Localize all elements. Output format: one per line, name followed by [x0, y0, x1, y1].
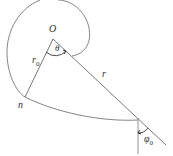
spiral-curve [7, 0, 138, 120]
r-label: r [102, 69, 106, 79]
origin-label: O [49, 24, 56, 34]
r0-label: r0 [32, 55, 39, 68]
phi0-sub: 0 [150, 139, 154, 147]
spiral-diagram: O θ r0 r n φ0 [0, 0, 173, 156]
r0-sub: 0 [36, 60, 40, 68]
radius-r-line [53, 39, 166, 145]
phi0-label: φ0 [144, 134, 153, 147]
n-label: n [18, 100, 23, 110]
radius-r0-line [25, 39, 53, 97]
phi-arrow-icon [138, 130, 141, 134]
theta-label: θ [55, 44, 59, 53]
